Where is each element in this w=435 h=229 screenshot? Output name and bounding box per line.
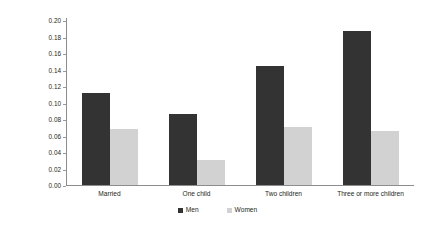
bar-group — [66, 21, 153, 185]
x-axis-line — [66, 185, 414, 186]
legend-label: Women — [235, 206, 258, 214]
bar-women[interactable] — [110, 129, 138, 185]
x-axis-label: Two children — [240, 189, 327, 198]
x-axis-label: One child — [153, 189, 240, 198]
y-tick-label: 0.14 — [49, 66, 61, 75]
y-tick-label: 0.02 — [49, 165, 61, 174]
bar-chart-figure: Estimated coefficients in wage gap regre… — [0, 0, 435, 229]
bar-women[interactable] — [371, 131, 399, 185]
y-tick-label: 0.20 — [49, 16, 61, 25]
bar-group — [240, 21, 327, 185]
bar-group — [153, 21, 240, 185]
bar-men[interactable] — [82, 93, 110, 185]
y-tick-label: 0.00 — [49, 181, 61, 190]
x-axis-label: Three or more children — [327, 189, 414, 198]
bar-women[interactable] — [197, 160, 225, 185]
y-tick-label: 0.06 — [49, 132, 61, 141]
y-tick-label: 0.16 — [49, 49, 61, 58]
legend-item-women[interactable]: Women — [227, 206, 258, 214]
x-axis-label: Married — [66, 189, 153, 198]
legend-item-men[interactable]: Men — [178, 206, 199, 214]
y-tick-label: 0.04 — [49, 148, 61, 157]
legend-swatch-men — [178, 208, 183, 213]
bar-women[interactable] — [284, 127, 312, 185]
bar-men[interactable] — [169, 114, 197, 185]
bars-layer — [66, 21, 414, 185]
bar-men[interactable] — [256, 66, 284, 185]
chart-legend: MenWomen — [0, 206, 435, 214]
y-tick-label: 0.12 — [49, 82, 61, 91]
y-tick-label: 0.10 — [49, 99, 61, 108]
y-tick-label: 0.18 — [49, 33, 61, 42]
plot-area: 0.200.180.160.140.120.100.080.060.040.02… — [66, 21, 414, 186]
y-axis-title: Estimated coefficients in wage gap regre… — [14, 0, 38, 40]
x-axis-labels: MarriedOne childTwo childrenThree or mor… — [66, 189, 414, 198]
y-tick-mark — [63, 186, 66, 187]
bar-group — [327, 21, 414, 185]
y-tick-label: 0.08 — [49, 115, 61, 124]
legend-label: Men — [186, 206, 199, 214]
bar-men[interactable] — [343, 31, 371, 185]
legend-swatch-women — [227, 208, 232, 213]
